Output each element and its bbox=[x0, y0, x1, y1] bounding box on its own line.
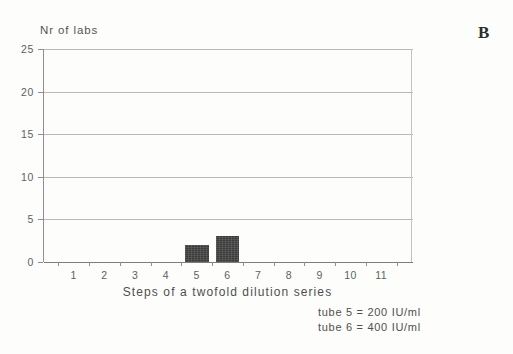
x-tick-label: 10 bbox=[340, 269, 362, 281]
y-tick-label: 5 bbox=[2, 213, 34, 225]
x-tick-mark bbox=[397, 262, 398, 266]
bars-layer bbox=[43, 49, 412, 262]
footnote: tube 6 = 400 IU/ml bbox=[318, 320, 421, 335]
x-tick-label: 9 bbox=[309, 269, 331, 281]
footnote-list: tube 5 = 200 IU/mltube 6 = 400 IU/ml bbox=[318, 305, 421, 335]
x-tick-label: 2 bbox=[94, 269, 116, 281]
x-tick-mark bbox=[151, 262, 152, 266]
x-tick-mark bbox=[181, 262, 182, 266]
y-tick-label: 15 bbox=[2, 128, 34, 140]
x-tick-mark bbox=[304, 262, 305, 266]
x-tick-mark bbox=[274, 262, 275, 266]
x-tick-mark bbox=[243, 262, 244, 266]
x-tick-label: 7 bbox=[247, 269, 269, 281]
y-tick-label: 25 bbox=[2, 43, 34, 55]
y-tick-label: 20 bbox=[2, 86, 34, 98]
x-tick-label: 4 bbox=[155, 269, 177, 281]
x-tick-mark bbox=[120, 262, 121, 266]
bar bbox=[185, 245, 209, 262]
y-tick-label: 0 bbox=[2, 256, 34, 268]
x-tick-mark bbox=[58, 262, 59, 266]
bar bbox=[216, 236, 240, 262]
figure-panel-b: B Nr of labs 0510152025 1234567891011 St… bbox=[0, 0, 513, 354]
x-tick-label: 5 bbox=[186, 269, 208, 281]
y-tick-label: 10 bbox=[2, 171, 34, 183]
x-tick-label: 11 bbox=[370, 269, 392, 281]
x-tick-label: 6 bbox=[217, 269, 239, 281]
x-tick-mark bbox=[366, 262, 367, 266]
y-axis-title: Nr of labs bbox=[40, 24, 98, 36]
x-tick-label: 8 bbox=[278, 269, 300, 281]
x-tick-mark bbox=[335, 262, 336, 266]
panel-label: B bbox=[478, 23, 490, 43]
x-axis-title: Steps of a twofold dilution series bbox=[43, 285, 412, 299]
x-tick-mark bbox=[89, 262, 90, 266]
x-tick-mark bbox=[212, 262, 213, 266]
x-tick-label: 1 bbox=[63, 269, 85, 281]
x-tick-label: 3 bbox=[124, 269, 146, 281]
footnote: tube 5 = 200 IU/ml bbox=[318, 305, 421, 320]
